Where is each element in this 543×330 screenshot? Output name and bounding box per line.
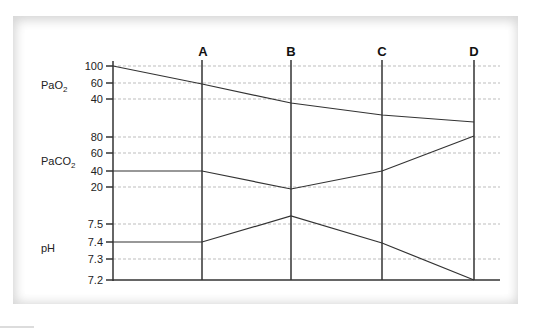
column-label-c: C xyxy=(377,44,387,59)
tick-label: 20 xyxy=(91,181,103,193)
tick-labels: 100 60 40 80 60 40 20 7.5 7.4 7.3 7.2 xyxy=(85,60,103,286)
series-ph xyxy=(113,216,474,280)
tick-label: 7.3 xyxy=(88,253,103,265)
column-label-d: D xyxy=(469,44,478,59)
tick-label: 80 xyxy=(91,131,103,143)
tick-label: 40 xyxy=(91,165,103,177)
column-label-b: B xyxy=(286,44,295,59)
row-label-ph: pH xyxy=(41,242,55,254)
row-label-pao2: PaO2 xyxy=(41,79,68,94)
tick-label: 60 xyxy=(91,77,103,89)
tick-label: 60 xyxy=(91,147,103,159)
tick-marks xyxy=(106,66,113,280)
tick-label: 40 xyxy=(91,93,103,105)
series-pao2 xyxy=(113,66,474,122)
gridlines xyxy=(113,66,500,259)
column-label-a: A xyxy=(198,44,208,59)
tick-label: 7.5 xyxy=(88,218,103,230)
blood-gas-chart: 100 60 40 80 60 40 20 7.5 7.4 7.3 7.2 Pa… xyxy=(0,0,543,330)
tick-label: 7.4 xyxy=(88,236,103,248)
row-label-paco2: PaCO2 xyxy=(41,155,76,170)
series-paco2 xyxy=(113,136,474,189)
tick-label: 100 xyxy=(85,60,103,72)
tick-label: 7.2 xyxy=(88,274,103,286)
